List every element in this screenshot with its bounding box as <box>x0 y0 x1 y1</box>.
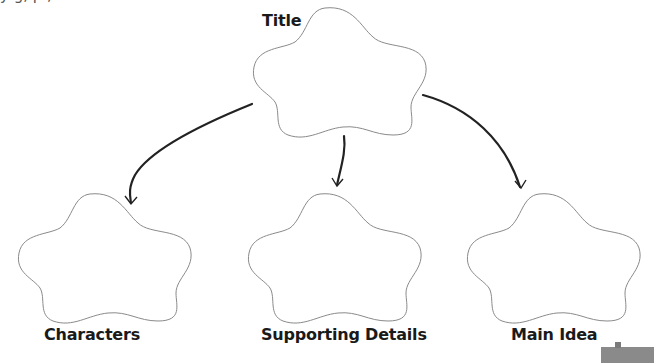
graphic-organizer: y g, p , <box>0 0 654 363</box>
corner-toolbar-widget[interactable] <box>601 347 654 363</box>
label-characters: Characters <box>44 325 140 344</box>
label-main-idea: Main Idea <box>511 325 597 344</box>
label-supporting-details: Supporting Details <box>261 325 427 344</box>
cloud-characters <box>18 194 191 323</box>
cloud-main-idea <box>467 194 640 323</box>
widget-knob-icon <box>615 342 621 348</box>
cloud-supporting-details <box>248 194 421 323</box>
label-title: Title <box>262 11 301 30</box>
arrow-title-to-characters <box>130 104 252 203</box>
arrowhead-main-idea-icon <box>515 180 526 188</box>
diagram-canvas <box>0 0 654 363</box>
arrow-title-to-supporting-details <box>337 136 345 185</box>
arrow-title-to-main-idea <box>423 95 520 187</box>
